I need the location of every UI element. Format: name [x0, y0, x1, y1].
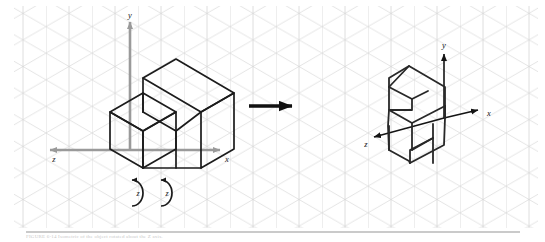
right-axis-y-label: y: [441, 40, 446, 50]
left-axis-y-label: y: [127, 10, 132, 20]
left-axis-x-label: x: [224, 154, 229, 164]
isometric-grid-background: [0, 0, 545, 242]
right-axis-x-label: x: [486, 108, 491, 118]
figure-caption: FIGURE 6-14 Isometric of the object rota…: [26, 234, 163, 239]
right-axis-z-label: z: [363, 139, 368, 149]
isometric-figure: z z y x z: [0, 0, 545, 242]
left-axis-z-label: z: [51, 154, 56, 164]
